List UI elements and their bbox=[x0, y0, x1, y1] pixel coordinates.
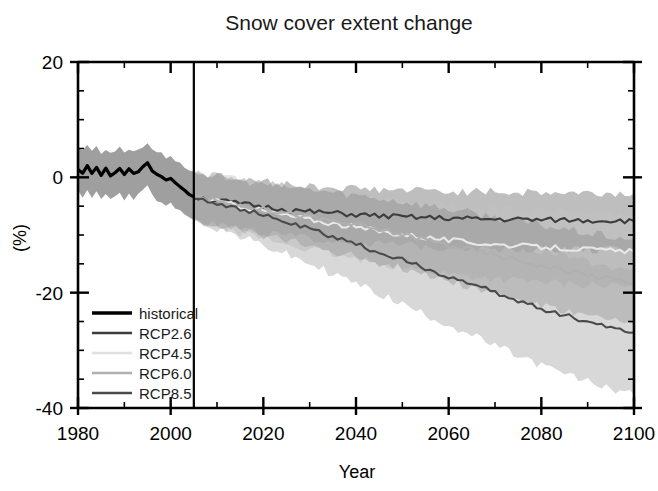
x-tick-label: 2060 bbox=[428, 423, 470, 444]
y-axis-label: (%) bbox=[10, 224, 30, 252]
y-tick-label: -40 bbox=[36, 398, 63, 419]
legend-label-rcp8-5: RCP8.5 bbox=[139, 385, 192, 402]
legend-label-rcp2-6: RCP2.6 bbox=[139, 325, 192, 342]
y-tick-label: -20 bbox=[36, 283, 63, 304]
x-axis-label: Year bbox=[339, 462, 375, 482]
x-tick-label: 2040 bbox=[335, 423, 377, 444]
x-tick-label: 2020 bbox=[242, 423, 284, 444]
legend-label-rcp6-0: RCP6.0 bbox=[139, 365, 192, 382]
x-tick-label: 2100 bbox=[613, 423, 655, 444]
y-tick-label: 0 bbox=[52, 167, 63, 188]
x-tick-label: 2080 bbox=[520, 423, 562, 444]
x-tick-label: 1980 bbox=[57, 423, 99, 444]
legend-label-historical: historical bbox=[139, 305, 198, 322]
legend-label-rcp4-5: RCP4.5 bbox=[139, 345, 192, 362]
y-tick-label: 20 bbox=[42, 52, 63, 73]
snow-cover-extent-change-chart: Snow cover extent change 198020002020204… bbox=[0, 0, 658, 491]
chart-title: Snow cover extent change bbox=[225, 11, 473, 34]
x-tick-label: 2000 bbox=[150, 423, 192, 444]
